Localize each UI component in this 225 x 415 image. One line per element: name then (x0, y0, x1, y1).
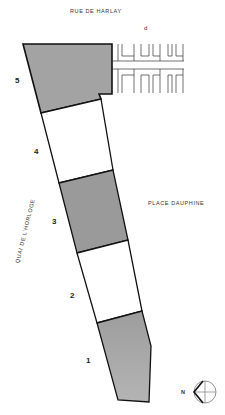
north-arrow-icon (194, 381, 216, 403)
section-3 (59, 170, 128, 253)
section-1 (97, 311, 151, 402)
section-label-3: 3 (52, 217, 56, 226)
section-4 (41, 99, 113, 183)
section-label-1: 1 (86, 356, 90, 365)
section-label-5: 5 (15, 76, 19, 85)
street-label-place-dauphine: PLACE DAUPHINE (148, 200, 204, 206)
north-label: N (181, 389, 186, 395)
section-2 (77, 240, 142, 323)
street-label-rue-de-harlay: RUE DE HARLAY (70, 8, 122, 14)
section-label-4: 4 (34, 147, 38, 156)
grid-label: d (144, 25, 148, 31)
adjoining-building-plan (112, 44, 184, 93)
section-label-2: 2 (70, 291, 74, 300)
